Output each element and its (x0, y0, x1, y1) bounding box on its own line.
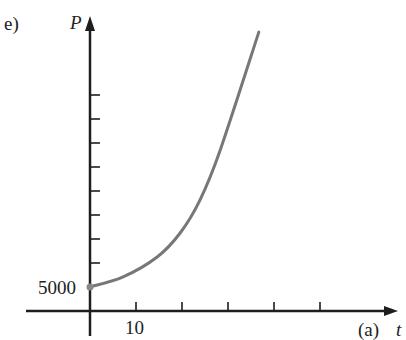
growth-curve (90, 32, 259, 287)
y-tick-label-5000: 5000 (38, 278, 76, 297)
x-axis-arrow-icon (384, 306, 398, 316)
initial-point-marker (87, 284, 94, 291)
y-axis-arrow-icon (85, 16, 95, 31)
x-tick-label-10: 10 (125, 318, 144, 337)
x-axis-label: t (396, 320, 401, 339)
axis-note: (a) (358, 320, 379, 339)
y-axis-label: P (70, 13, 82, 32)
ticks (90, 95, 320, 311)
panel-label: e) (4, 14, 19, 33)
